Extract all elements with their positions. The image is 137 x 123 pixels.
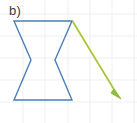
arrow-shaft	[73, 22, 118, 96]
figure-panel: b)	[0, 0, 137, 123]
arrow-head-icon	[111, 89, 121, 99]
panel-label: b)	[9, 3, 21, 18]
figure-drawing	[0, 0, 137, 123]
diagonal-arrow	[73, 22, 121, 99]
hourglass-shape	[14, 21, 72, 100]
